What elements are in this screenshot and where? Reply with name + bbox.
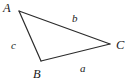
side-label-a: a bbox=[80, 63, 86, 74]
vertex-label-c: C bbox=[116, 39, 124, 52]
side-label-c: c bbox=[11, 40, 16, 51]
triangle-figure: A B C a b c bbox=[0, 0, 130, 83]
side-label-b: b bbox=[72, 13, 78, 24]
vertex-label-a: A bbox=[3, 2, 11, 15]
vertex-label-b: B bbox=[33, 68, 41, 81]
side-c-line bbox=[19, 11, 41, 61]
triangle-shape bbox=[0, 0, 130, 83]
side-b-line bbox=[19, 11, 110, 44]
side-a-line bbox=[41, 44, 110, 61]
